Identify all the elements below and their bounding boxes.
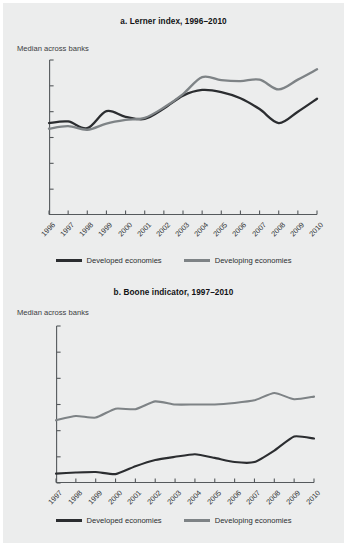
chart-panel-boone-indicator: b. Boone indicator, 1997–2010 Median acr… [3, 276, 344, 546]
legend-item-developed: Developed economies [56, 516, 162, 525]
legend-label-developing: Developing economies [215, 516, 292, 525]
figure-container: a. Lerner index, 1996–2010 Median across… [0, 0, 347, 546]
panel-a-title: a. Lerner index, 1996–2010 [3, 17, 344, 26]
panel-b-axis-note: Median across banks [17, 308, 89, 317]
legend-label-developing: Developing economies [215, 256, 292, 265]
series-line-developed [56, 436, 314, 474]
legend-swatch-developing [184, 259, 210, 261]
legend-swatch-developing [184, 519, 210, 521]
legend-swatch-developed [56, 259, 82, 262]
legend-label-developed: Developed economies [87, 516, 162, 525]
legend-swatch-developed [56, 519, 82, 522]
legend-item-developing: Developing economies [184, 516, 292, 525]
panel-b-plot-area [56, 326, 314, 483]
series-line-developing [56, 393, 314, 420]
legend-label-developed: Developed economies [87, 256, 162, 265]
panel-b-legend: Developed economies Developing economies [3, 516, 344, 525]
chart-panel-lerner-index: a. Lerner index, 1996–2010 Median across… [3, 3, 344, 276]
chart-svg [56, 326, 318, 485]
legend-item-developed: Developed economies [56, 256, 162, 265]
panel-a-axis-note: Median across banks [17, 44, 89, 53]
legend-item-developing: Developing economies [184, 256, 292, 265]
panel-a-legend: Developed economies Developing economies [3, 256, 344, 265]
panel-b-title: b. Boone indicator, 1997–2010 [3, 288, 344, 297]
panel-a-plot-area [49, 60, 317, 215]
chart-svg [49, 60, 321, 217]
series-line-developing [49, 69, 317, 129]
series-line-developed [49, 90, 317, 129]
